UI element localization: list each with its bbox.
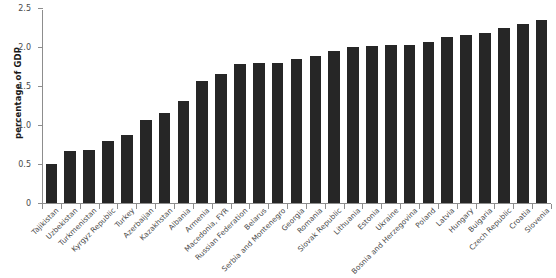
y-tick: 1.0	[38, 125, 43, 126]
bar	[234, 64, 246, 203]
bar	[328, 51, 340, 203]
y-tick-label: 2.0	[18, 43, 31, 52]
bar	[159, 113, 171, 203]
bar	[121, 135, 133, 203]
bar	[479, 33, 491, 203]
y-tick-label: 1.5	[18, 82, 31, 91]
y-tick-label: 2.5	[18, 4, 31, 13]
y-tick: 2.0	[38, 47, 43, 48]
x-axis-labels: TajikistanUzbekistanTurkmenistanKyrgyz R…	[42, 206, 556, 278]
bar	[347, 47, 359, 203]
bar	[272, 63, 284, 203]
bar	[178, 101, 190, 203]
bar	[536, 20, 548, 203]
bar	[385, 45, 397, 203]
bar	[366, 46, 378, 203]
y-axis-line	[42, 10, 43, 203]
bar	[196, 81, 208, 203]
bar	[310, 56, 322, 203]
bar	[291, 59, 303, 203]
x-tick-label: Poland	[414, 206, 438, 230]
bar	[215, 74, 227, 203]
y-tick: 1.5	[38, 86, 43, 87]
bar	[517, 24, 529, 203]
bar	[140, 120, 152, 203]
bar-chart: percentage of GDP 00.51.01.52.02.5 Tajik…	[0, 0, 556, 278]
bar	[423, 42, 435, 203]
bar	[253, 63, 265, 203]
bar	[404, 45, 416, 203]
bar	[64, 151, 76, 203]
bar	[441, 37, 453, 203]
plot-area: 00.51.01.52.02.5	[42, 8, 551, 203]
y-tick-label: 0	[26, 199, 31, 208]
y-tick-label: 1.0	[18, 121, 31, 130]
y-tick: 0.5	[38, 164, 43, 165]
bar	[102, 141, 114, 203]
bar	[498, 28, 510, 204]
y-tick-label: 0.5	[18, 160, 31, 169]
bar	[83, 150, 95, 203]
bar	[46, 164, 58, 203]
y-tick: 2.5	[38, 8, 43, 9]
bar	[460, 35, 472, 203]
